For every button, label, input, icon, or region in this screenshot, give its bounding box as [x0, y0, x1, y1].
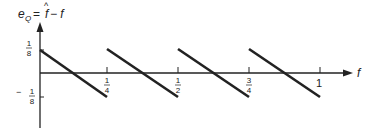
svg-text:3: 3 — [247, 76, 252, 85]
x-label-1: 1 — [316, 77, 322, 89]
svg-text:4: 4 — [105, 86, 110, 95]
x-axis-arrow-icon — [343, 70, 353, 77]
title-eq-sub: Q — [25, 14, 31, 23]
x-label-3-4: 3 4 — [246, 76, 252, 95]
svg-text:1: 1 — [105, 76, 110, 85]
svg-text:1: 1 — [30, 87, 35, 96]
svg-text:8: 8 — [30, 97, 35, 106]
y-label-pos: 1 8 — [26, 39, 32, 58]
sawtooth-diagram: e Q = f ^ − f 1 8 − 1 8 1 4 1 2 3 4 1 f — [0, 0, 377, 131]
svg-text:2: 2 — [176, 86, 181, 95]
x-label-1-2: 1 2 — [175, 76, 181, 95]
y-label-neg: − 1 8 — [16, 87, 35, 106]
svg-text:8: 8 — [27, 49, 32, 58]
title-eq-equals: = — [33, 7, 40, 21]
y-axis-arrow-icon — [37, 22, 44, 32]
svg-text:4: 4 — [247, 86, 252, 95]
svg-text:−: − — [16, 87, 21, 97]
svg-text:1: 1 — [176, 76, 181, 85]
svg-text:1: 1 — [27, 39, 32, 48]
x-label-1-4: 1 4 — [104, 76, 110, 95]
title-eq-lhs: e — [18, 7, 25, 21]
title-eq-rest: − f — [50, 7, 65, 21]
x-axis-label: f — [357, 66, 362, 80]
